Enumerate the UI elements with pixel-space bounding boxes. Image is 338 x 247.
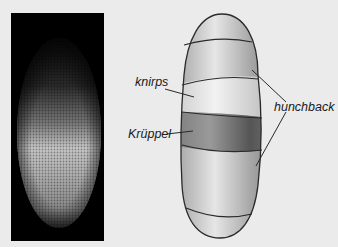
embryo-diagram [0,0,338,247]
label-hunchback: hunchback [274,100,334,114]
label-kruppel: Krüppel [128,127,171,141]
knirps-band [170,76,270,118]
embryo-bands [170,0,270,247]
label-knirps: knirps [135,75,168,89]
